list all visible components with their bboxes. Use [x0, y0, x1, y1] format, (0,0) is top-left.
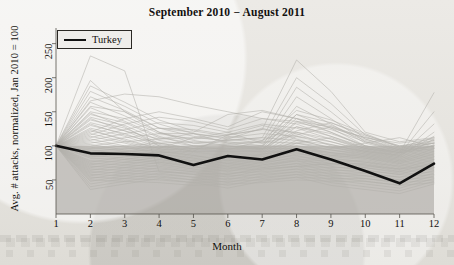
- x-tick-label-9: 9: [321, 218, 341, 229]
- y-tick-label-150: 150: [44, 111, 55, 127]
- legend-label-turkey: Turkey: [92, 34, 122, 45]
- x-tick-label-4: 4: [149, 218, 169, 229]
- x-tick-label-10: 10: [355, 218, 375, 229]
- chart-figure: September 2010 − August 2011 Avg. # atta…: [0, 0, 454, 265]
- background-series-line: [56, 106, 434, 146]
- x-tick-label-8: 8: [287, 218, 307, 229]
- x-tick-label-11: 11: [390, 218, 410, 229]
- x-tick-label-1: 1: [46, 218, 66, 229]
- x-tick-label-2: 2: [80, 218, 100, 229]
- y-tick-label-100: 100: [44, 145, 55, 161]
- y-tick-label-50: 50: [44, 179, 55, 190]
- y-tick-label-200: 200: [44, 77, 55, 93]
- x-tick-label-6: 6: [218, 218, 238, 229]
- chart-legend: Turkey: [57, 30, 132, 49]
- x-tick-label-12: 12: [424, 218, 444, 229]
- legend-line-swatch-turkey: [64, 39, 86, 41]
- background-series-line: [56, 60, 434, 146]
- x-tick-label-3: 3: [115, 218, 135, 229]
- x-tick-label-7: 7: [252, 218, 272, 229]
- x-tick-label-5: 5: [183, 218, 203, 229]
- y-tick-label-250: 250: [44, 43, 55, 59]
